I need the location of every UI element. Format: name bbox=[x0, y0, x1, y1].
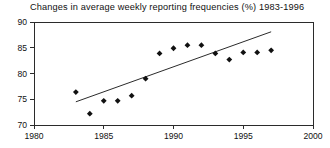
y-tick-label-80: 80 bbox=[17, 69, 27, 79]
x-tick-label-1990: 1990 bbox=[164, 131, 183, 141]
data-point-0-8 bbox=[185, 42, 191, 48]
data-point-0-6 bbox=[157, 51, 163, 57]
data-point-0-4 bbox=[129, 93, 135, 99]
y-tick-label-90: 90 bbox=[17, 17, 27, 27]
y-tick-label-85: 85 bbox=[17, 43, 27, 53]
x-tick-label-1980: 1980 bbox=[24, 131, 43, 141]
data-point-0-9 bbox=[199, 42, 205, 48]
chart-container: Changes in average weekly reporting freq… bbox=[0, 0, 330, 148]
chart-plot: 7075808590 19801985199019952000 bbox=[0, 0, 330, 148]
trend-line bbox=[76, 32, 271, 102]
data-point-0-14 bbox=[268, 47, 274, 53]
data-point-0-5 bbox=[143, 76, 149, 82]
x-tick-label-1985: 1985 bbox=[94, 131, 113, 141]
y-tick-label-70: 70 bbox=[17, 120, 27, 130]
y-axis-tick-labels: 7075808590 bbox=[17, 17, 27, 130]
axis-lines bbox=[30, 22, 313, 129]
data-point-0-11 bbox=[226, 57, 232, 63]
data-point-0-7 bbox=[171, 45, 177, 51]
data-point-0-3 bbox=[115, 98, 121, 104]
data-point-0-0 bbox=[73, 89, 79, 95]
x-axis-tick-labels: 19801985199019952000 bbox=[24, 131, 322, 141]
data-points bbox=[73, 42, 274, 116]
x-tick-label-2000: 2000 bbox=[303, 131, 322, 141]
data-point-0-12 bbox=[240, 49, 246, 55]
data-point-0-13 bbox=[254, 49, 260, 55]
x-tick-label-1995: 1995 bbox=[234, 131, 253, 141]
data-point-0-1 bbox=[87, 111, 93, 117]
regression-trend-line bbox=[76, 32, 271, 102]
y-tick-label-75: 75 bbox=[17, 94, 27, 104]
data-point-0-2 bbox=[101, 98, 107, 104]
